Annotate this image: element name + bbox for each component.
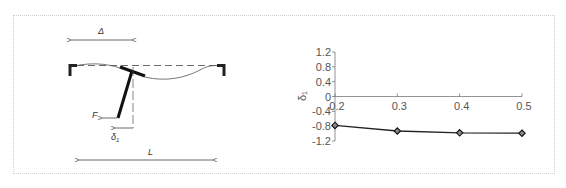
y-tick-label: -0.4	[312, 105, 331, 117]
y-tick-label: -0.8	[312, 120, 331, 132]
diamond-marker	[332, 122, 338, 128]
y-tick-label: -1.2	[312, 135, 331, 147]
y-tick-label: 0.4	[316, 76, 331, 88]
deflection-chart: 1.20.80.40-0.4-0.8-1.20.20.30.40.5 δ₁	[0, 0, 566, 188]
y-tick-label: 0.8	[316, 61, 331, 73]
series-line	[335, 125, 522, 133]
y-axis-label: δ₁	[296, 91, 308, 101]
y-tick-label: 1.2	[316, 46, 331, 58]
x-tick-label: 0.2	[329, 100, 344, 112]
x-tick-label: 0.5	[516, 100, 531, 112]
chart-series	[332, 122, 525, 136]
diamond-marker	[519, 130, 525, 136]
x-tick-label: 0.3	[392, 100, 407, 112]
diamond-marker	[456, 130, 462, 136]
diamond-marker	[394, 128, 400, 134]
x-tick-label: 0.4	[454, 100, 469, 112]
